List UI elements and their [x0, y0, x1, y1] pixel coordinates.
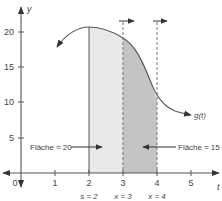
curve-g: [57, 27, 89, 47]
area-right-label: Fläche ≈ 15: [178, 143, 220, 152]
x-tick-5: 5: [188, 178, 193, 188]
y-tick-20: 20: [4, 27, 14, 37]
area-region-s2-to-x3: [89, 27, 123, 173]
x-axis-label: t: [217, 182, 220, 192]
marker-x4-label: x = 4: [147, 192, 166, 201]
marker-s-label: s = 2: [80, 192, 98, 201]
marker-x3-label: x = 3: [113, 192, 132, 201]
x-tick-4: 4: [154, 178, 159, 188]
y-tick-10: 10: [4, 97, 14, 107]
y-tick-5: 5: [9, 133, 14, 143]
y-axis-label: y: [26, 4, 32, 14]
y-tick-15: 15: [4, 62, 14, 72]
x-tick-2: 2: [86, 178, 91, 188]
curve-label: g(t): [194, 111, 206, 120]
x-tick-1: 1: [52, 178, 57, 188]
x-tick-3: 3: [120, 178, 125, 188]
origin-label: 0: [12, 178, 17, 188]
area-function-diagram: y t 20 15 10 5 0 1 2 3 4 5 s = 2 x = 3 x…: [0, 0, 222, 201]
area-left-label: Fläche ≈ 20: [30, 143, 72, 152]
